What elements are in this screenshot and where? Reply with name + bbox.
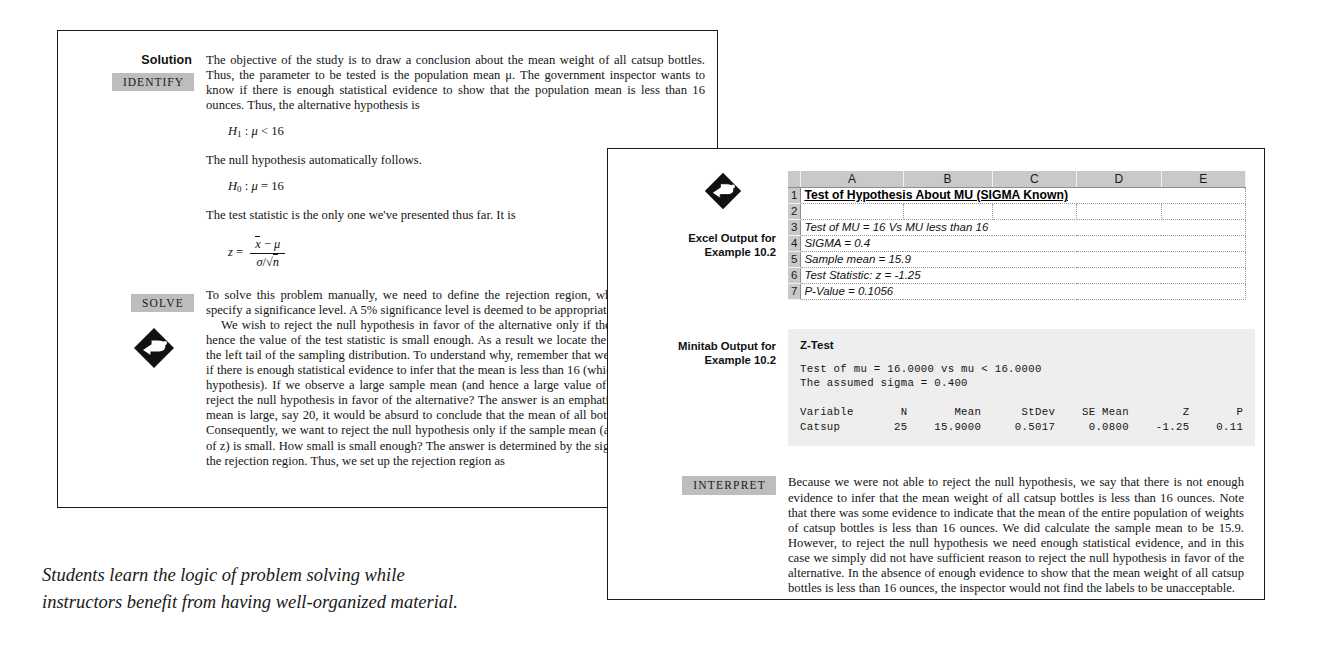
excel-row-number[interactable]: 4 [788,235,801,251]
excel-column-header-row: A B C D E [788,171,1246,187]
excel-row: 7 P-Value = 0.1056 [788,283,1246,299]
excel-cell-a4[interactable]: SIGMA = 0.4 [801,235,1246,251]
excel-row-number[interactable]: 2 [788,203,801,219]
minitab-label-line-1: Minitab Output for [608,339,776,353]
excel-row-number[interactable]: 1 [788,187,801,203]
excel-row-number[interactable]: 6 [788,267,801,283]
excel-cell-e2[interactable] [1161,203,1246,219]
minitab-results-text: Test of mu = 16.0000 vs mu < 16.0000 The… [800,362,1243,435]
solve-tag: SOLVE [131,294,194,312]
minitab-output-section: Minitab Output for Example 10.2 Z-Test T… [608,329,1264,447]
excel-row: 2 [788,203,1246,219]
figure-caption: Students learn the logic of problem solv… [42,562,462,616]
excel-row: 3 Test of MU = 16 Vs MU less than 16 [788,219,1246,235]
minitab-output-block: Z-Test Test of mu = 16.0000 vs mu < 16.0… [788,329,1255,447]
excel-cell-c2[interactable] [992,203,1076,219]
excel-cell-d2[interactable] [1077,203,1161,219]
excel-cell-a5[interactable]: Sample mean = 15.9 [801,251,1246,267]
solution-label: Solution [58,53,194,67]
excel-output-section: Excel Output for Example 10.2 A B C D E … [608,171,1264,300]
identify-gutter: Solution IDENTIFY [58,53,194,91]
identify-section: Solution IDENTIFY The objective of the s… [58,53,717,113]
interpret-section: INTERPRET Because we were not able to re… [608,475,1264,596]
excel-col-header-c[interactable]: C [992,171,1076,187]
pointing-hand-diamond-icon [701,171,745,215]
minitab-title: Z-Test [800,339,1243,351]
excel-row-number[interactable]: 7 [788,283,801,299]
excel-cell-a6[interactable]: Test Statistic: z = -1.25 [801,267,1246,283]
minitab-label-line-2: Example 10.2 [608,353,776,367]
excel-cell-a1[interactable]: Test of Hypothesis About MU (SIGMA Known… [801,187,1246,203]
excel-row: 6 Test Statistic: z = -1.25 [788,267,1246,283]
excel-gutter: Excel Output for Example 10.2 [608,171,788,259]
interpret-gutter: INTERPRET [608,475,788,494]
excel-spreadsheet[interactable]: A B C D E 1 Test of Hypothesis About MU … [788,171,1246,300]
z-denominator: σ/√n [250,254,285,270]
minitab-gutter: Minitab Output for Example 10.2 [608,329,788,367]
excel-cell-a3[interactable]: Test of MU = 16 Vs MU less than 16 [801,219,1246,235]
excel-row-number[interactable]: 5 [788,251,801,267]
excel-cell-a2[interactable] [801,203,903,219]
excel-row: 4 SIGMA = 0.4 [788,235,1246,251]
excel-row: 5 Sample mean = 15.9 [788,251,1246,267]
excel-col-header-b[interactable]: B [903,171,992,187]
alt-hypothesis-formula: H1 : μ < 16 [228,124,705,142]
excel-row-number[interactable]: 3 [788,219,801,235]
interpret-tag: INTERPRET [682,476,776,494]
output-page-panel: Excel Output for Example 10.2 A B C D E … [607,148,1265,600]
identify-tag: IDENTIFY [112,73,194,91]
excel-col-header-d[interactable]: D [1077,171,1161,187]
excel-cell-a7[interactable]: P-Value = 0.1056 [801,283,1246,299]
excel-cell-b2[interactable] [903,203,992,219]
excel-label-line-2: Example 10.2 [608,245,776,259]
interpret-paragraph: Because we were not able to reject the n… [788,475,1244,596]
excel-col-header-e[interactable]: E [1161,171,1246,187]
excel-row: 1 Test of Hypothesis About MU (SIGMA Kno… [788,187,1246,203]
identify-paragraph: The objective of the study is to draw a … [206,53,705,113]
excel-corner-cell[interactable] [788,171,801,187]
excel-label-line-1: Excel Output for [608,231,776,245]
excel-col-header-a[interactable]: A [801,171,903,187]
z-numerator: x − μ [250,237,285,254]
solve-gutter: SOLVE [58,288,194,374]
z-fraction: x − μ σ/√n [250,237,285,270]
interpret-body: Because we were not able to reject the n… [788,475,1244,596]
pointing-hand-diamond-icon [132,326,176,370]
